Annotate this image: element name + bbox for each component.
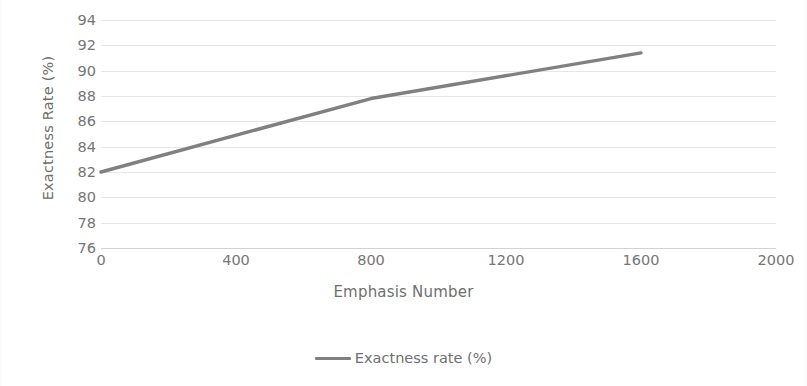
y-axis-tick-label: 90 [56, 63, 96, 78]
x-axis-tick-label: 800 [331, 252, 411, 268]
y-axis-tick-label: 86 [56, 114, 96, 129]
scan-edge-left [0, 0, 2, 386]
x-axis-tick-label: 0 [61, 252, 141, 268]
y-axis-tick-label: 78 [56, 215, 96, 230]
legend-label: Exactness rate (%) [355, 350, 492, 366]
legend-entry: Exactness rate (%) [315, 350, 492, 366]
series-layer [101, 20, 776, 248]
x-axis-tick-label: 1200 [466, 252, 546, 268]
line-chart: Exactness Rate (%) 76788082848688909294 … [0, 0, 807, 386]
y-axis-title: Exactness Rate (%) [40, 18, 56, 238]
x-axis-line [101, 248, 776, 249]
x-axis-title: Emphasis Number [0, 283, 807, 301]
chart-legend: Exactness rate (%) [0, 350, 807, 366]
plot-area [101, 20, 776, 248]
y-axis-tick-label: 88 [56, 89, 96, 104]
y-axis-tick-label: 84 [56, 139, 96, 154]
y-axis-tick-label: 92 [56, 38, 96, 53]
x-axis-tick-labels: 0400800120016002000 [101, 252, 776, 278]
legend-swatch-icon [315, 357, 351, 360]
x-axis-tick-label: 2000 [736, 252, 807, 268]
series-line-exactness-rate [101, 53, 641, 172]
y-axis-tick-label: 82 [56, 165, 96, 180]
y-axis-tick-labels: 76788082848688909294 [56, 0, 96, 386]
y-axis-tick-label: 80 [56, 190, 96, 205]
x-axis-tick-label: 400 [196, 252, 276, 268]
x-axis-tick-label: 1600 [601, 252, 681, 268]
y-axis-tick-label: 94 [56, 13, 96, 28]
